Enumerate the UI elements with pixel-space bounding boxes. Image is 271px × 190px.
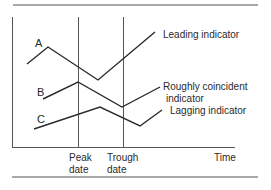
peak-date-label-line2: date: [69, 164, 89, 175]
peak-date-label: Peak: [69, 152, 93, 163]
indicator-diagram: A B C Leading indicator Roughly coincide…: [0, 0, 271, 190]
coincident-indicator-label: Roughly coincident: [163, 81, 248, 92]
series-c-label: C: [37, 113, 45, 125]
series-a-label: A: [35, 37, 43, 49]
series-a-leading-line: [27, 32, 155, 80]
leading-indicator-label: Leading indicator: [163, 29, 240, 40]
coincident-indicator-label-line2: indicator: [166, 93, 204, 104]
time-axis-label: Time: [214, 152, 236, 163]
series-c-lagging-line: [34, 107, 162, 129]
lagging-indicator-label: Lagging indicator: [170, 105, 247, 116]
series-b-label: B: [37, 86, 44, 98]
series-b-coincident-line: [43, 82, 160, 107]
trough-date-label: Trough: [107, 152, 138, 163]
trough-date-label-line2: date: [107, 164, 127, 175]
